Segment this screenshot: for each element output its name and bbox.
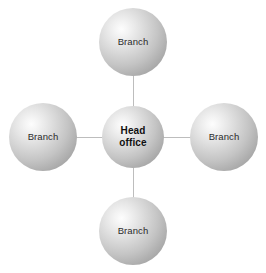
node-head-office: Headoffice xyxy=(102,106,164,168)
node-branch-right: Branch xyxy=(190,103,258,171)
node-branch-right-label: Branch xyxy=(209,131,240,142)
diagram-canvas: Branch Branch Branch Branch Headoffice xyxy=(0,0,266,273)
node-branch-bottom: Branch xyxy=(99,197,167,265)
node-head-office-label: Headoffice xyxy=(119,125,146,149)
node-branch-top: Branch xyxy=(99,8,167,76)
node-branch-top-label: Branch xyxy=(118,36,149,47)
node-branch-left-label: Branch xyxy=(28,131,59,142)
node-head-office-label-line-1: Head xyxy=(121,125,146,136)
node-head-office-label-line-2: office xyxy=(119,137,146,148)
node-branch-bottom-label: Branch xyxy=(118,225,149,236)
node-branch-left: Branch xyxy=(9,103,77,171)
